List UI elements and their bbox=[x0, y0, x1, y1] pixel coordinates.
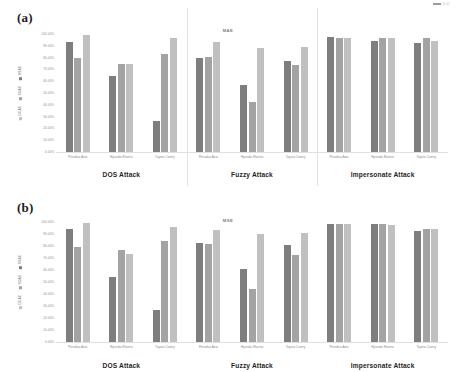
bar-dcae[interactable] bbox=[257, 234, 264, 342]
model-cluster-hyundai-elantra bbox=[100, 222, 144, 342]
bar-sdae[interactable] bbox=[292, 255, 299, 342]
bar-ssae[interactable] bbox=[414, 43, 421, 152]
bar-ssae[interactable] bbox=[153, 310, 160, 342]
legend-label: SDAE bbox=[18, 275, 22, 285]
bar-ssae[interactable] bbox=[109, 76, 116, 152]
attack-group-impersonate-attack bbox=[317, 222, 448, 342]
panel-a-y-axis: 100.00%90.00%80.00%70.00%60.00%50.00%40.… bbox=[34, 34, 56, 152]
panel-b-legend: DCAESDAESSAE bbox=[18, 255, 22, 309]
legend-item-dcae[interactable]: DCAE bbox=[18, 295, 22, 309]
bar-ssae[interactable] bbox=[153, 121, 160, 152]
bar-sdae[interactable] bbox=[74, 58, 81, 152]
bar-ssae[interactable] bbox=[414, 231, 421, 342]
bar-dcae[interactable] bbox=[170, 38, 177, 152]
bar-dcae[interactable] bbox=[344, 38, 351, 152]
y-axis-tick-label: 40.00% bbox=[43, 103, 54, 107]
bar-sdae[interactable] bbox=[205, 244, 212, 342]
y-axis-tick-label: 20.00% bbox=[43, 316, 54, 320]
bar-sdae[interactable] bbox=[249, 102, 256, 152]
bar-dcae[interactable] bbox=[344, 224, 351, 342]
x-axis-model-label: Perodua Axia bbox=[187, 155, 231, 159]
bar-dcae[interactable] bbox=[213, 42, 220, 152]
bar-sdae[interactable] bbox=[249, 289, 256, 342]
bar-sdae[interactable] bbox=[423, 38, 430, 152]
model-cluster-perodua-axia bbox=[317, 34, 361, 152]
legend-item-ssae[interactable]: SSAE bbox=[18, 66, 22, 80]
bar-dcae[interactable] bbox=[83, 223, 90, 342]
attack-group-label: Impersonate Attack bbox=[317, 171, 448, 178]
bar-sdae[interactable] bbox=[336, 38, 343, 152]
legend-swatch-icon bbox=[19, 97, 22, 100]
y-axis-tick-label: 10.00% bbox=[43, 328, 54, 332]
panel-a-model-labels: Perodua AxiaHyundai ElantraToyota CamryP… bbox=[56, 155, 448, 159]
x-axis-model-label: Hyundai Elantra bbox=[100, 345, 144, 349]
bar-dcae[interactable] bbox=[431, 41, 438, 153]
bar-sdae[interactable] bbox=[292, 65, 299, 152]
bar-sdae[interactable] bbox=[336, 224, 343, 342]
bar-dcae[interactable] bbox=[213, 230, 220, 342]
legend-item-sdae[interactable]: SDAE bbox=[18, 86, 22, 100]
panel-a-legend: DCAESDAESSAE bbox=[18, 66, 22, 120]
bar-ssae[interactable] bbox=[371, 41, 378, 153]
bar-sdae[interactable] bbox=[423, 229, 430, 342]
bar-sdae[interactable] bbox=[118, 64, 125, 153]
bar-ssae[interactable] bbox=[327, 224, 334, 342]
bar-dcae[interactable] bbox=[257, 48, 264, 152]
bar-dcae[interactable] bbox=[388, 38, 395, 152]
bar-sdae[interactable] bbox=[74, 247, 81, 342]
model-cluster-toyota-camry bbox=[274, 222, 318, 342]
legend-item-dcae[interactable]: DCAE bbox=[18, 106, 22, 120]
bar-sdae[interactable] bbox=[118, 250, 125, 342]
bar-ssae[interactable] bbox=[66, 42, 73, 152]
bar-dcae[interactable] bbox=[126, 254, 133, 342]
legend-label: SDAE bbox=[18, 86, 22, 96]
legend-item-ssae[interactable]: SSAE bbox=[18, 255, 22, 269]
y-axis-tick-label: 80.00% bbox=[43, 56, 54, 60]
bar-sdae[interactable] bbox=[161, 54, 168, 152]
bar-sdae[interactable] bbox=[379, 224, 386, 342]
attack-group-label: DOS Attack bbox=[56, 362, 187, 369]
bar-dcae[interactable] bbox=[431, 229, 438, 342]
model-cluster-perodua-axia bbox=[56, 34, 100, 152]
x-axis-model-label: Hyundai Elantra bbox=[230, 345, 274, 349]
corner-mark-text: 9:41 bbox=[443, 2, 450, 6]
model-cluster-hyundai-elantra bbox=[361, 34, 405, 152]
attack-group-label: DOS Attack bbox=[56, 171, 187, 178]
model-cluster-perodua-axia bbox=[317, 222, 361, 342]
model-label-slot: Perodua AxiaHyundai ElantraToyota Camry bbox=[187, 155, 318, 159]
bar-ssae[interactable] bbox=[240, 269, 247, 342]
bar-dcae[interactable] bbox=[83, 35, 90, 152]
y-axis-tick-label: 50.00% bbox=[43, 280, 54, 284]
model-label-slot: Perodua AxiaHyundai ElantraToyota Camry bbox=[187, 345, 318, 349]
bar-dcae[interactable] bbox=[388, 225, 395, 342]
bar-sdae[interactable] bbox=[161, 241, 168, 342]
panel-a: (a) MAE 100.00%90.00%80.00%70.00%60.00%5… bbox=[0, 8, 456, 194]
model-cluster-perodua-axia bbox=[56, 222, 100, 342]
bar-ssae[interactable] bbox=[284, 245, 291, 342]
bar-sdae[interactable] bbox=[379, 38, 386, 152]
bar-ssae[interactable] bbox=[196, 58, 203, 152]
legend-label: DCAE bbox=[18, 295, 22, 305]
bar-ssae[interactable] bbox=[284, 61, 291, 152]
bar-dcae[interactable] bbox=[126, 64, 133, 153]
y-axis-tick-label: 40.00% bbox=[43, 292, 54, 296]
model-cluster-toyota-camry bbox=[404, 34, 448, 152]
model-cluster-hyundai-elantra bbox=[361, 222, 405, 342]
bar-dcae[interactable] bbox=[170, 227, 177, 342]
bar-ssae[interactable] bbox=[240, 85, 247, 152]
model-label-slot: Perodua AxiaHyundai ElantraToyota Camry bbox=[317, 155, 448, 159]
y-axis-tick-label: 90.00% bbox=[43, 44, 54, 48]
model-cluster-perodua-axia bbox=[187, 222, 231, 342]
x-axis-model-label: Perodua Axia bbox=[56, 345, 100, 349]
legend-swatch-icon bbox=[19, 306, 22, 309]
bar-ssae[interactable] bbox=[109, 277, 116, 342]
bar-ssae[interactable] bbox=[66, 229, 73, 342]
bar-dcae[interactable] bbox=[301, 233, 308, 342]
bar-ssae[interactable] bbox=[196, 243, 203, 342]
y-axis-tick-label: 90.00% bbox=[43, 232, 54, 236]
bar-dcae[interactable] bbox=[301, 47, 308, 152]
bar-ssae[interactable] bbox=[371, 224, 378, 342]
bar-sdae[interactable] bbox=[205, 57, 212, 152]
legend-item-sdae[interactable]: SDAE bbox=[18, 275, 22, 289]
bar-ssae[interactable] bbox=[327, 37, 334, 152]
